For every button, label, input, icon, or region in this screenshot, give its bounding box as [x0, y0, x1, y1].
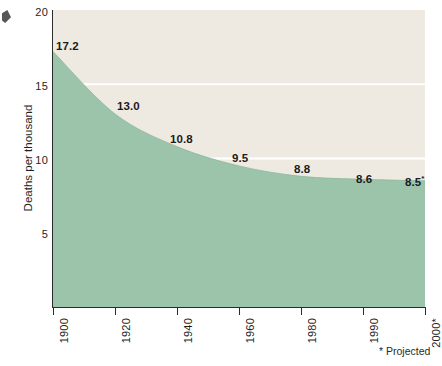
data-label-2000: 8.5*	[405, 174, 425, 188]
data-label-1920: 13.0	[117, 100, 140, 112]
x-tick-label-1900: 1900	[58, 318, 70, 343]
data-label-2000-asterisk: *	[421, 174, 424, 183]
x-tick-label-1960: 1960	[244, 318, 256, 343]
y-axis-line	[52, 10, 53, 307]
x-tick-mark-1900	[53, 308, 54, 315]
x-tick-mark-1960	[239, 308, 240, 315]
y-axis-title: Deaths per thousand	[22, 78, 34, 238]
x-tick-label-1940: 1940	[182, 318, 194, 343]
x-tick-mark-1980	[301, 308, 302, 315]
data-label-1960: 9.5	[232, 152, 248, 164]
data-label-1980: 8.8	[294, 163, 310, 175]
x-tick-label-1990: 1990	[368, 318, 380, 343]
data-label-2000-value: 8.5	[405, 176, 421, 188]
x-tick-label-2000: 2000*	[430, 318, 442, 348]
data-label-1940: 10.8	[170, 133, 193, 145]
x-tick-mark-1940	[177, 308, 178, 315]
data-label-1990: 8.6	[356, 173, 372, 185]
footnote-projected: * Projected	[379, 345, 430, 357]
x-tick-label-1980: 1980	[306, 318, 318, 343]
x-tick-mark-2000	[425, 308, 426, 315]
x-tick-mark-1990	[363, 308, 364, 315]
y-tick-label-20: 20	[4, 6, 48, 18]
data-label-1900: 17.2	[56, 40, 79, 52]
x-tick-mark-1920	[115, 308, 116, 315]
x-tick-label-1920: 1920	[120, 318, 132, 343]
